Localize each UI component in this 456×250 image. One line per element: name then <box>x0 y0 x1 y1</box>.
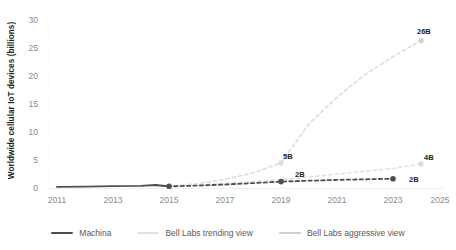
x-tick-2025: 2025 <box>420 196 456 205</box>
legend-label-bell-labs-aggressive-view: Bell Labs aggressive view <box>307 228 405 238</box>
x-tick-2013: 2013 <box>93 196 133 205</box>
annotation-2b-2020: 2B <box>295 171 305 179</box>
legend-label-machina: Machina <box>79 228 111 238</box>
aggressive-marker-2025 <box>418 38 424 44</box>
x-tick-2011: 2011 <box>37 196 77 205</box>
iot-devices-line-chart: Worldwide cellular IoT devices (billions… <box>0 0 456 250</box>
x-tick-2019: 2019 <box>261 196 301 205</box>
series-line-machina-solid <box>57 185 169 187</box>
machina-marker-2024 <box>390 176 396 182</box>
annotation-2b-2024: 2B <box>409 176 419 184</box>
x-tick-2017: 2017 <box>205 196 245 205</box>
machina-marker-2016 <box>166 183 172 189</box>
plot-area <box>0 0 456 250</box>
legend-item-bell-labs-aggressive-view[interactable]: Bell Labs aggressive view <box>279 228 405 238</box>
annotation-26b: 26B <box>417 28 431 36</box>
chart-legend: Machina Bell Labs trending view Bell Lab… <box>0 228 456 238</box>
annotation-4b: 4B <box>424 154 434 162</box>
legend-item-bell-labs-trending-view[interactable]: Bell Labs trending view <box>137 228 252 238</box>
legend-item-machina[interactable]: Machina <box>51 228 111 238</box>
legend-label-bell-labs-trending-view: Bell Labs trending view <box>165 228 252 238</box>
series-line-aggressive <box>169 41 421 187</box>
machina-marker-2020 <box>278 179 284 185</box>
legend-swatch-bell-labs-trending-view <box>137 232 159 234</box>
aggressive-marker-2020 <box>278 160 283 165</box>
trending-marker-2025 <box>418 161 423 166</box>
legend-swatch-machina <box>51 232 73 234</box>
x-tick-2015: 2015 <box>149 196 189 205</box>
x-tick-2023: 2023 <box>373 196 413 205</box>
x-tick-2021: 2021 <box>317 196 357 205</box>
legend-swatch-bell-labs-aggressive-view <box>279 232 301 234</box>
annotation-5b: 5B <box>283 153 293 161</box>
